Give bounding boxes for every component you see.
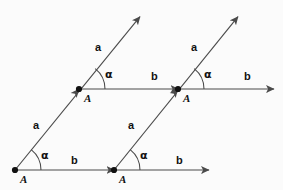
angle-arc-bottom-left — [31, 150, 41, 170]
vertex-dot-bottom-left — [12, 167, 18, 173]
ray-label-a-bottom-right: a — [128, 120, 134, 131]
angle-arc-bottom-right — [130, 150, 140, 170]
ray-a-left — [15, 17, 140, 170]
vertex-label-top-right: A — [183, 93, 190, 104]
vertex-dot-top-left — [76, 86, 82, 92]
angle-label-top-left: α — [105, 69, 113, 80]
vertex-label-top-left: A — [84, 93, 91, 104]
ray-label-b-bottom-left: b — [71, 155, 78, 166]
ray-label-b-bottom-right: b — [176, 155, 183, 166]
angle-arc-top-left — [95, 69, 105, 89]
vertex-dot-bottom-right — [111, 167, 117, 173]
vertex-label-bottom-left: A — [20, 174, 27, 185]
vertex-dot-top-right — [175, 86, 181, 92]
angle-arc-top-right — [194, 69, 204, 89]
ray-label-a-top-right: a — [191, 42, 197, 53]
geometry-diagram: A A A A α α α α a a a a b b b b — [0, 0, 283, 190]
ray-label-b-top-right: b — [244, 71, 251, 82]
ray-label-b-top-left: b — [151, 71, 158, 82]
vertex-label-bottom-right: A — [119, 174, 126, 185]
ray-a-right — [114, 17, 238, 170]
angle-label-top-right: α — [204, 69, 212, 80]
angle-label-bottom-left: α — [41, 150, 49, 161]
ray-label-a-bottom-left: a — [33, 120, 39, 131]
ray-label-a-top-left: a — [95, 42, 101, 53]
angle-label-bottom-right: α — [140, 150, 148, 161]
